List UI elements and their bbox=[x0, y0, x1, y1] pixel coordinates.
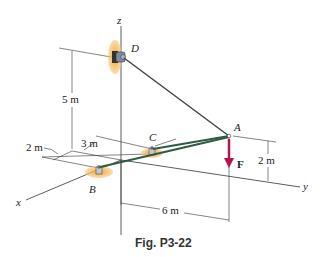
dimension-3m: 3 m bbox=[81, 137, 98, 150]
strut-CA bbox=[153, 136, 229, 149]
cable-strut-diagram: z x y 5 m 3 m 2 m 6 m bbox=[0, 0, 328, 257]
dim-label-6m: 6 m bbox=[162, 204, 179, 216]
force-F: F bbox=[224, 139, 244, 170]
point-A: A bbox=[227, 121, 241, 138]
figure-caption: Fig. P3-22 bbox=[135, 236, 192, 250]
dimension-5m: 5 m bbox=[59, 48, 117, 149]
dim-label-2m-z: 2 m bbox=[258, 154, 275, 166]
dimension-2m-x: 2 m bbox=[26, 141, 58, 154]
support-B: B bbox=[85, 165, 113, 195]
support-D: D bbox=[108, 40, 139, 74]
y-axis-label: y bbox=[302, 180, 308, 192]
point-B-label: B bbox=[89, 183, 96, 195]
dim-label-3m: 3 m bbox=[81, 137, 98, 149]
z-axis-label: z bbox=[116, 14, 122, 26]
point-C-label: C bbox=[149, 131, 157, 143]
dim-label-2m-x: 2 m bbox=[26, 141, 43, 153]
dimension-6m: 6 m bbox=[121, 138, 229, 222]
x-axis-label: x bbox=[15, 196, 21, 208]
cable-DA bbox=[124, 58, 229, 136]
force-F-label: F bbox=[237, 158, 244, 170]
dim-label-5m: 5 m bbox=[62, 93, 79, 105]
point-D-label: D bbox=[130, 42, 139, 54]
point-A-label: A bbox=[233, 121, 241, 133]
